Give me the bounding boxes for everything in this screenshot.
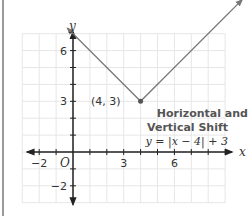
equation-label: y = |x − 4| + 3 [145,135,228,149]
y-axis-label: y [68,19,76,33]
labels: y x O (4, 3) Horizontal and Vertical Shi… [60,19,248,170]
vertex-label: (4, 3) [91,95,121,108]
x-tick-label: −2 [31,157,47,170]
left-ray [68,28,141,101]
graph: −23663−2 y x O (4, 3) Horizontal and Ver… [0,0,252,216]
function-graph [68,0,242,104]
vertex-point [138,99,143,104]
y-tick-label: 6 [60,45,67,58]
caption-line-2: Vertical Shift [147,121,228,134]
y-tick-label: −2 [51,180,67,193]
caption-line-1: Horizontal and [157,107,248,120]
x-axis-label: x [239,145,246,159]
origin-label: O [60,156,70,170]
x-tick-label: 6 [171,157,178,170]
y-tick-label: 3 [60,95,67,108]
x-tick-label: 3 [120,157,127,170]
